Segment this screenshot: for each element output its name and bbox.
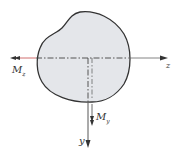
y-axis-arrowhead-icon xyxy=(86,140,91,148)
moment-y-label: My xyxy=(96,112,110,124)
z-axis-arrowhead-icon xyxy=(160,56,168,61)
moment-y-subscript: y xyxy=(106,117,109,124)
moment-z-label: Mz xyxy=(12,65,25,77)
moment-z-subscript: z xyxy=(22,70,25,77)
y-axis-label: y xyxy=(79,136,85,146)
moment-y-symbol: M xyxy=(96,111,106,122)
cross-section-diagram xyxy=(0,0,181,155)
cross-section-shape xyxy=(37,12,130,102)
z-axis-label: z xyxy=(166,62,170,70)
moment-z-symbol: M xyxy=(12,64,22,75)
